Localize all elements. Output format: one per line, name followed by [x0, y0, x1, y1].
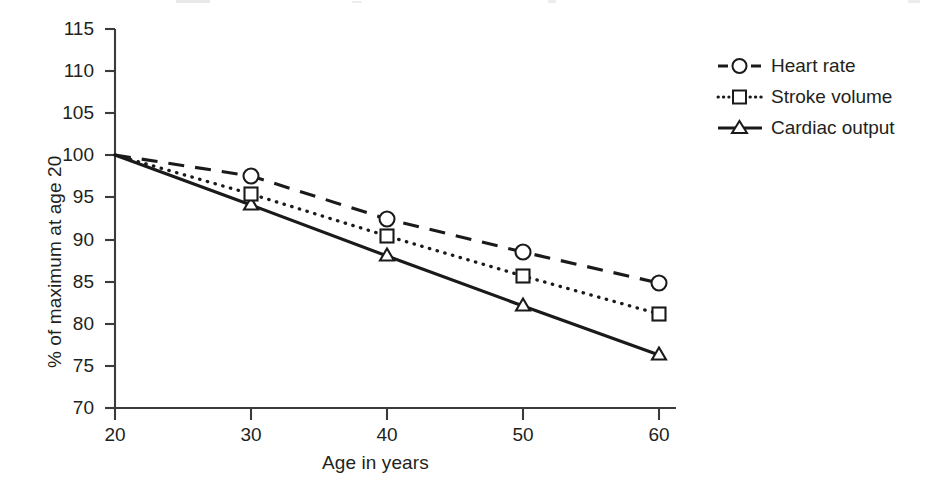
x-axis-ticks: [115, 408, 659, 420]
legend-key-cardiac-output: [716, 117, 768, 139]
chart-figure: 115 110 105 100 95 90 85 80 75 70 20 30 …: [0, 0, 941, 497]
circle-marker: [733, 59, 747, 73]
legend-item-cardiac-output[interactable]: Cardiac output: [716, 114, 932, 142]
legend-label-cardiac-output: Cardiac output: [771, 117, 895, 139]
y-tick-label-70: 70: [52, 397, 94, 419]
x-tick-label-30: 30: [231, 424, 271, 446]
y-tick-label-105: 105: [52, 102, 94, 124]
legend-key-stroke-volume: [716, 86, 768, 108]
series-markers-stroke-volume: [245, 188, 666, 321]
y-axis-ticks: [105, 29, 115, 408]
series-heart-rate: [115, 155, 667, 291]
chart-legend: Heart rate Stroke volume Cardiac output: [716, 52, 932, 145]
x-tick-label-60: 60: [639, 424, 679, 446]
x-tick-label-40: 40: [367, 424, 407, 446]
series-cardiac-output: [115, 155, 666, 360]
x-axis-title: Age in years: [322, 452, 429, 474]
x-tick-label-50: 50: [503, 424, 543, 446]
y-tick-label-110: 110: [52, 60, 94, 82]
y-tick-label-115: 115: [52, 18, 94, 40]
legend-key-heart-rate: [716, 55, 768, 77]
legend-item-stroke-volume[interactable]: Stroke volume: [716, 83, 932, 111]
legend-label-heart-rate: Heart rate: [771, 55, 855, 77]
legend-label-stroke-volume: Stroke volume: [771, 86, 892, 108]
series-markers-heart-rate: [244, 169, 667, 291]
legend-item-heart-rate[interactable]: Heart rate: [716, 52, 932, 80]
x-tick-label-20: 20: [95, 424, 135, 446]
y-axis-title: % of maximum at age 20: [44, 156, 66, 368]
series-stroke-volume: [115, 155, 666, 321]
square-marker: [733, 91, 746, 104]
